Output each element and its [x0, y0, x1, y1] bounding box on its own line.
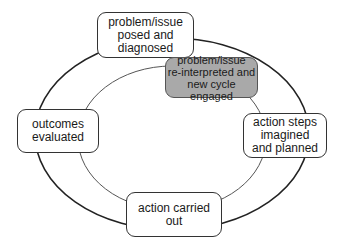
node-outcomes-evaluated: outcomes evaluated	[17, 109, 99, 153]
node-problem-posed-diagnosed: problem/issue posed and diagnosed	[97, 12, 194, 58]
action-research-cycle-diagram: problem/issue posed and diagnosed proble…	[0, 0, 343, 248]
node-action-carried-out: action carried out	[126, 192, 222, 237]
node-action-steps-planned: action steps imagined and planned	[243, 113, 327, 158]
node-problem-reinterpreted: problem/issue re-interpreted and new cyc…	[165, 57, 258, 98]
